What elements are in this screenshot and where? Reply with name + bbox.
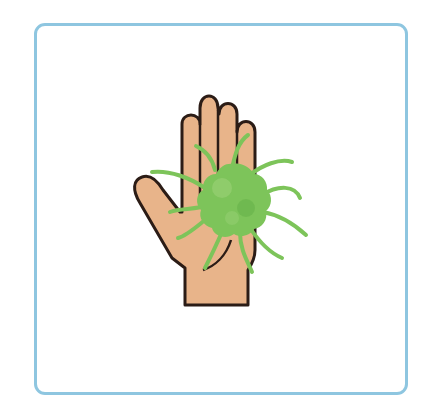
germ-on-hand-illustration: [0, 0, 429, 407]
